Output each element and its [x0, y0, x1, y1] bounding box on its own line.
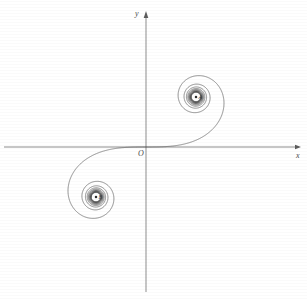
point-label-b: B [99, 194, 103, 200]
point-label-a: A [199, 94, 203, 100]
origin-label: O [138, 150, 144, 158]
y-axis-label: y [135, 10, 139, 18]
point-marker-b [95, 196, 98, 199]
figure-background [0, 0, 307, 299]
point-marker-a [195, 96, 198, 99]
x-axis-label: x [296, 152, 300, 160]
cornu-spiral-figure [0, 0, 307, 299]
